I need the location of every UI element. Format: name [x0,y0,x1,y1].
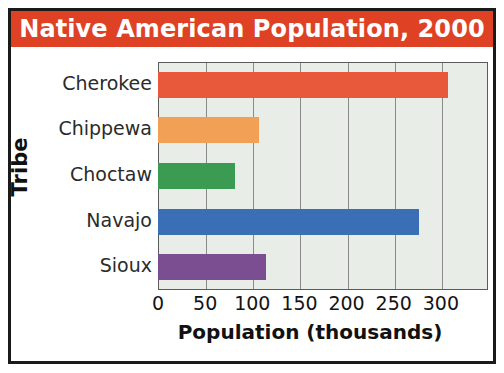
bar-navajo [158,209,419,235]
x-tick-250: 250 [376,292,412,314]
y-axis-title: Tribe [8,119,32,215]
x-axis-tick-labels: 050100150200250300 [158,292,488,318]
bar-cherokee [158,72,448,98]
category-label-sioux: Sioux [2,254,152,276]
bar-chippewa [158,117,259,143]
bar-sioux [158,254,266,280]
chart-page: Native American Population, 2000 Cheroke… [0,0,504,373]
bar-choctaw [158,163,235,189]
chart-title-banner: Native American Population, 2000 [11,11,493,47]
x-tick-50: 50 [193,292,217,314]
category-label-cherokee: Cherokee [2,72,152,94]
x-tick-300: 300 [423,292,459,314]
bar-row [158,108,488,154]
x-tick-150: 150 [281,292,317,314]
chart-title: Native American Population, 2000 [19,15,485,43]
bars-layer [158,62,488,290]
x-tick-0: 0 [152,292,164,314]
x-tick-200: 200 [328,292,364,314]
bar-row [158,62,488,108]
bar-row [158,199,488,245]
bar-row [158,244,488,290]
x-tick-100: 100 [234,292,270,314]
bar-row [158,153,488,199]
x-axis-title: Population (thousands) [130,320,490,344]
